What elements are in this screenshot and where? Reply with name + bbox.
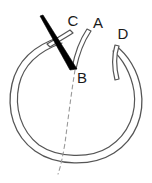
diagram-canvas: C A D B xyxy=(0,0,152,183)
label-d: D xyxy=(118,25,129,42)
branch-tube-a xyxy=(72,29,91,69)
label-a: A xyxy=(93,14,103,31)
label-b: B xyxy=(77,69,87,86)
dashed-axis-path xyxy=(58,70,75,174)
branch-a-body xyxy=(72,29,91,69)
branch-d-body xyxy=(113,45,119,80)
dashed-reference-line xyxy=(58,70,75,174)
figure-container: C A D B xyxy=(0,0,152,183)
label-c: C xyxy=(68,12,79,29)
branch-tube-d xyxy=(113,45,119,80)
